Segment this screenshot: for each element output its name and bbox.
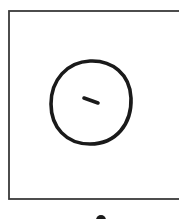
dot-mark bbox=[96, 215, 106, 219]
frame-rectangle bbox=[9, 11, 179, 199]
diagram-svg bbox=[0, 0, 179, 219]
dash-mark bbox=[84, 98, 98, 103]
circle-shape bbox=[51, 61, 131, 144]
diagram-canvas bbox=[0, 0, 179, 219]
